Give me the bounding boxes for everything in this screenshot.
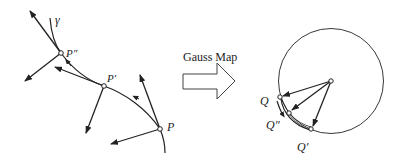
normal-arrow-p1 [86,86,104,133]
center-point [329,79,333,83]
point-p1 [102,84,107,89]
point-q0 [278,95,282,99]
normal-to-q0 [283,81,331,96]
point-p0 [158,127,163,132]
tangent-arrow-p0 [140,75,160,129]
point-q1 [309,127,313,131]
label-q1: Q′ [297,140,309,154]
point-q2 [287,111,291,115]
image-arc [277,99,311,130]
label-q0: Q [260,94,269,108]
gauss-map-label: Gauss Map [183,50,237,64]
sphere-points [278,79,333,131]
label-p0: P [166,120,175,134]
gauss-map-arrow-icon [183,63,235,99]
label-gamma: γ [55,13,60,27]
gauss-map-figure: γ P″ P′ P Gauss Map Q Q″ Q′ [0,0,398,160]
label-q2: Q″ [266,118,281,132]
label-p2: P″ [65,47,78,59]
tangent-arrow-p1 [55,67,104,86]
point-p2 [59,51,64,56]
curve-points [59,51,163,132]
tangent-normal-vectors [25,11,160,144]
gauss-normal-vectors [283,81,331,126]
label-p1: P′ [106,72,117,84]
normal-arrow-p0 [111,129,160,144]
